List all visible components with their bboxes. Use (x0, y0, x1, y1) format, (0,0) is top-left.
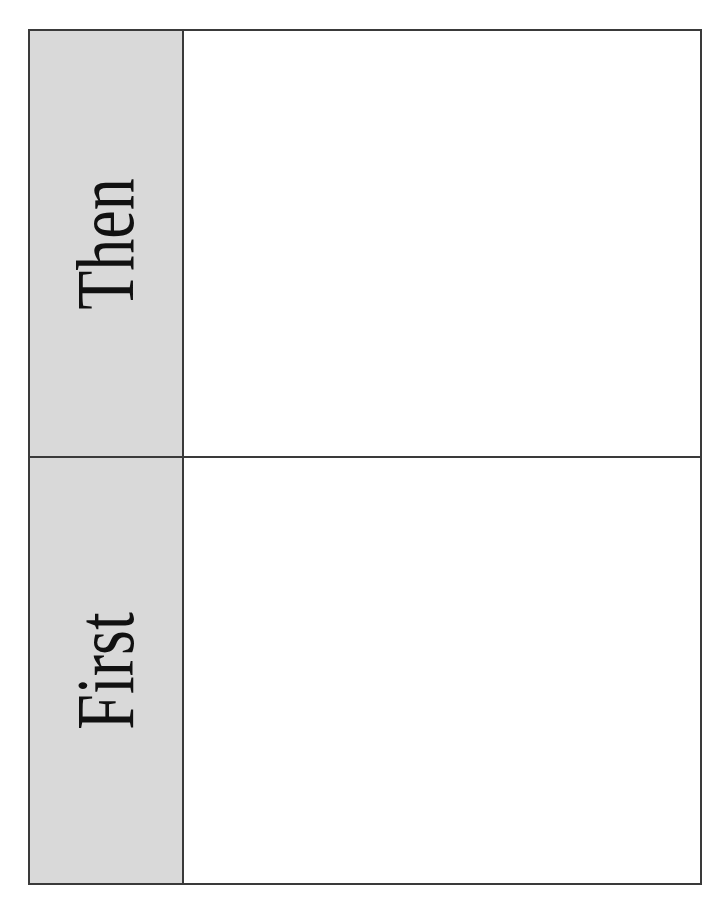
panel-first-label: First (64, 612, 147, 729)
panel-first-label-column: First (30, 458, 184, 883)
panel-then-label: Then (64, 178, 147, 310)
panel-then-label-column: Then (30, 31, 184, 456)
panel-then-content-area (184, 31, 700, 456)
first-then-board: Then First (28, 29, 702, 885)
panel-then: Then (30, 31, 700, 458)
panel-first: First (30, 458, 700, 883)
panel-first-content-area (184, 458, 700, 883)
